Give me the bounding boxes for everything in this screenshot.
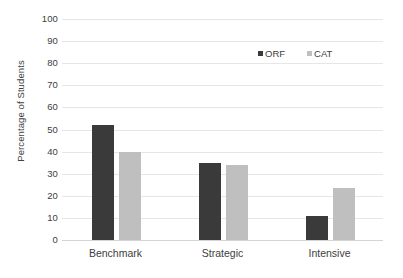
gridline xyxy=(62,107,383,108)
legend-swatch-orf xyxy=(258,51,263,56)
gridline xyxy=(62,85,383,86)
x-axis-label-strategic: Strategic xyxy=(169,246,276,260)
x-axis-label-intensive: Intensive xyxy=(276,246,383,260)
bar-orf-benchmark[interactable] xyxy=(92,125,114,240)
y-axis-tick-label: 90 xyxy=(36,36,58,46)
x-axis-category-labels: BenchmarkStrategicIntensive xyxy=(62,246,383,262)
bar-chart: Percentage of Students 01020304050607080… xyxy=(0,0,403,278)
axis-baseline xyxy=(62,240,383,241)
gridline xyxy=(62,63,383,64)
gridline xyxy=(62,19,383,20)
legend-swatch-cat xyxy=(307,51,312,56)
chart-legend: ORFCAT xyxy=(258,47,332,59)
y-axis-tick-label: 100 xyxy=(36,14,58,24)
y-axis-tick-label: 0 xyxy=(36,235,58,245)
legend-entry-cat[interactable]: CAT xyxy=(307,48,332,59)
y-axis-tick-label: 60 xyxy=(36,102,58,112)
bar-orf-strategic[interactable] xyxy=(199,163,221,240)
bar-cat-intensive[interactable] xyxy=(333,188,355,240)
y-axis-tick-label: 20 xyxy=(36,191,58,201)
y-axis-tick-label: 50 xyxy=(36,125,58,135)
y-axis-tick-label: 70 xyxy=(36,80,58,90)
y-axis-tick-label: 30 xyxy=(36,169,58,179)
y-axis-tick-label: 40 xyxy=(36,147,58,157)
plot-area xyxy=(62,19,383,240)
y-axis-tick-label: 80 xyxy=(36,58,58,68)
y-axis-title: Percentage of Students xyxy=(14,31,28,191)
y-axis-tick-labels: 0102030405060708090100 xyxy=(36,0,58,278)
x-axis-label-benchmark: Benchmark xyxy=(62,246,169,260)
bar-cat-benchmark[interactable] xyxy=(119,152,141,240)
bar-cat-strategic[interactable] xyxy=(226,165,248,240)
legend-label: ORF xyxy=(265,48,285,59)
gridline xyxy=(62,41,383,42)
legend-entry-orf[interactable]: ORF xyxy=(258,48,285,59)
legend-label: CAT xyxy=(314,48,332,59)
y-axis-tick-label: 10 xyxy=(36,213,58,223)
bar-orf-intensive[interactable] xyxy=(306,216,328,240)
